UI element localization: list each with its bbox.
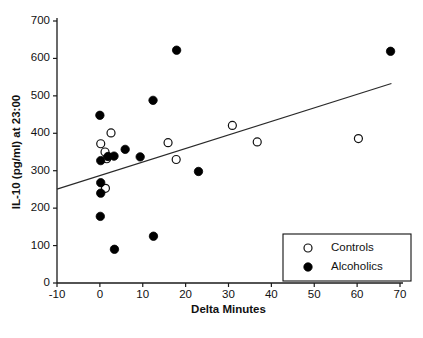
y-tick-label: 500: [31, 89, 50, 101]
x-tick-label: 70: [394, 288, 407, 300]
data-point-controls[interactable]: [228, 121, 236, 129]
scatter-chart-figure: 0100200300400500600700-10010203040506070…: [0, 0, 423, 338]
y-tick-label: 300: [31, 164, 50, 176]
x-tick-label: 0: [97, 288, 103, 300]
data-point-alcoholics[interactable]: [96, 111, 104, 119]
data-point-controls[interactable]: [97, 140, 105, 148]
data-point-alcoholics[interactable]: [136, 153, 144, 161]
data-point-alcoholics[interactable]: [96, 212, 104, 220]
legend-label-alcoholics: Alcoholics: [331, 260, 383, 272]
y-tick-label: 0: [44, 276, 50, 288]
x-tick-label: 10: [136, 288, 149, 300]
data-point-controls[interactable]: [354, 135, 362, 143]
legend-marker-controls: [304, 244, 312, 252]
x-tick-label: 50: [308, 288, 321, 300]
regression-line: [57, 84, 391, 190]
data-point-alcoholics[interactable]: [149, 232, 157, 240]
legend-label-controls: Controls: [331, 241, 374, 253]
data-point-alcoholics[interactable]: [110, 245, 118, 253]
legend-group: ControlsAlcoholics: [283, 234, 411, 281]
data-point-alcoholics[interactable]: [194, 167, 202, 175]
points-group: [96, 46, 395, 254]
y-tick-label: 100: [31, 239, 50, 251]
x-axis-title: Delta Minutes: [191, 303, 266, 315]
data-point-controls[interactable]: [172, 155, 180, 163]
y-tick-label: 400: [31, 126, 50, 138]
data-point-alcoholics[interactable]: [149, 96, 157, 104]
x-tick-label: 20: [179, 288, 192, 300]
y-tick-label: 200: [31, 201, 50, 213]
x-tick-label: 40: [265, 288, 278, 300]
x-tick-label: 30: [222, 288, 235, 300]
data-point-alcoholics[interactable]: [97, 178, 105, 186]
data-point-alcoholics[interactable]: [110, 152, 118, 160]
x-tick-label: 60: [351, 288, 364, 300]
y-tick-label: 600: [31, 51, 50, 63]
data-point-alcoholics[interactable]: [97, 189, 105, 197]
y-tick-label: 700: [31, 14, 50, 26]
data-point-controls[interactable]: [253, 138, 261, 146]
legend-marker-alcoholics: [304, 263, 312, 271]
data-point-controls[interactable]: [164, 139, 172, 147]
data-point-alcoholics[interactable]: [121, 145, 129, 153]
plot-canvas: 0100200300400500600700-10010203040506070…: [0, 0, 423, 338]
data-point-controls[interactable]: [107, 129, 115, 137]
trendline-group: [57, 84, 391, 190]
x-tick-label: -10: [49, 288, 66, 300]
data-point-alcoholics[interactable]: [386, 47, 394, 55]
y-axis-title: IL-10 (pg/ml) at 23:00: [10, 95, 22, 209]
data-point-alcoholics[interactable]: [172, 46, 180, 54]
